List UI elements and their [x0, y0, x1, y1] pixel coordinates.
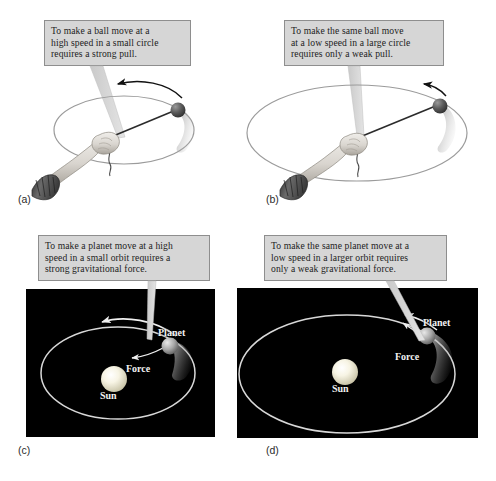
callout-d-line-3: only a weak gravitational force.	[271, 263, 440, 275]
callout-d-line-2: low speed in a larger orbit requires	[271, 252, 440, 264]
panel-d-label: (d)	[266, 444, 279, 456]
callout-a-line-3: requires a strong pull.	[51, 48, 184, 60]
panel-c-label: (c)	[18, 444, 30, 456]
panel-b: To make the same ball move at a low spee…	[248, 0, 496, 220]
callout-b-line-1: To make the same ball move	[291, 25, 437, 37]
callout-d-line-1: To make the same planet move at a	[271, 240, 440, 252]
planet-body-c	[162, 338, 179, 355]
planet-body-d	[419, 328, 436, 345]
callout-c: To make a planet move at a high speed in…	[38, 235, 210, 281]
callout-b: To make the same ball move at a low spee…	[284, 20, 444, 66]
space-scene-c: Sun Planet Force	[26, 289, 215, 437]
panel-d: To make the same planet move at a low sp…	[248, 225, 496, 481]
physics-figure: To make a ball move at a high speed in a…	[0, 0, 496, 481]
sun-label-c: Sun	[100, 390, 117, 401]
orbit-diagram-d	[237, 288, 478, 438]
panel-b-label: (b)	[266, 193, 279, 205]
sun-body-c	[101, 366, 127, 392]
orbit-diagram-c	[26, 289, 215, 437]
callout-b-line-3: requires only a weak pull.	[291, 48, 437, 60]
planet-label-d: Planet	[423, 317, 450, 328]
callout-c-line-3: strong gravitational force.	[45, 263, 203, 275]
sun-label-d: Sun	[332, 383, 349, 394]
callout-c-line-2: speed in a small orbit requires a	[45, 252, 203, 264]
callout-c-line-1: To make a planet move at a high	[45, 240, 203, 252]
callout-d: To make the same planet move at a low sp…	[264, 235, 447, 281]
panel-a-label: (a)	[18, 193, 31, 205]
space-scene-d: Sun Planet Force	[237, 288, 478, 438]
force-label-d: Force	[395, 351, 419, 362]
force-arrow-c	[132, 348, 163, 358]
planet-label-c: Planet	[158, 327, 185, 338]
sun-body-d	[332, 359, 358, 385]
callout-a-line-2: high speed in a small circle	[51, 37, 184, 49]
force-label-c: Force	[126, 363, 150, 374]
callout-a-line-1: To make a ball move at a	[51, 25, 184, 37]
panel-c: To make a planet move at a high speed in…	[0, 225, 248, 481]
panel-a: To make a ball move at a high speed in a…	[0, 0, 248, 220]
callout-a: To make a ball move at a high speed in a…	[44, 20, 191, 66]
callout-b-line-2: at a low speed in a large circle	[291, 37, 437, 49]
